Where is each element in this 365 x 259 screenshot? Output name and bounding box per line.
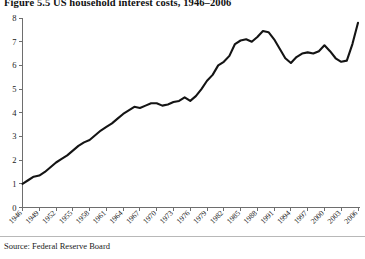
source-note: Source: Federal Reserve Board (4, 241, 110, 251)
x-tick-label: 1988 (242, 208, 259, 225)
y-tick-label: 3 (12, 131, 16, 141)
series-group (23, 23, 359, 184)
x-tick-label: 1952 (40, 208, 57, 225)
x-tick-label: 2006 (342, 208, 359, 225)
x-tick-label: 1985 (225, 208, 242, 225)
line-chart-svg: 012345678 194619491952195519581961196419… (0, 12, 365, 237)
x-tick-label: 1994 (275, 208, 292, 225)
x-tick-group: 1946194919521955195819611964196719701973… (7, 208, 360, 226)
y-tick-label: 7 (12, 37, 16, 47)
y-tick-label: 8 (12, 13, 16, 23)
x-tick-label: 1964 (107, 208, 124, 225)
x-tick-label: 2000 (309, 208, 326, 225)
footer-divider (0, 236, 365, 237)
x-tick-label: 1991 (258, 208, 275, 225)
chart-plot-area: 012345678 194619491952195519581961196419… (0, 12, 365, 237)
x-tick-label: 1979 (191, 208, 208, 225)
x-tick-label: 1970 (141, 208, 158, 225)
x-tick-label: 1946 (7, 208, 24, 225)
x-tick-label: 1958 (74, 208, 91, 225)
x-tick-label: 1949 (24, 208, 41, 225)
x-tick-label: 1976 (175, 208, 192, 225)
y-tick-label: 4 (12, 108, 17, 118)
x-tick-label: 1973 (158, 208, 175, 225)
figure-title: Figure 5.5 US household interest costs, … (4, 0, 231, 8)
x-tick-label: 1997 (292, 208, 309, 225)
x-tick-label: 1955 (57, 208, 74, 225)
data-line-household-interest-costs (23, 23, 359, 184)
y-tick-label: 2 (12, 155, 16, 165)
y-tick-label: 1 (12, 179, 16, 189)
x-tick-label: 1967 (124, 208, 141, 225)
x-tick-label: 1961 (91, 208, 108, 225)
x-tick-label: 2003 (326, 208, 343, 225)
x-tick-label: 1982 (208, 208, 225, 225)
y-tick-label: 5 (12, 84, 16, 94)
y-tick-group: 012345678 (12, 13, 22, 213)
y-tick-label: 6 (12, 60, 16, 70)
